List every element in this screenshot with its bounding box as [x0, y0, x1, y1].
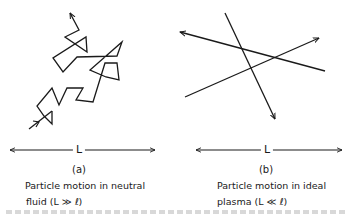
random-walk-path: [37, 13, 122, 124]
panel-tag-b: (b): [259, 164, 273, 175]
cutoff-caption-text: [6, 210, 346, 214]
caption-b-line2: plasma (L ≪ ℓ): [217, 196, 287, 207]
panel-tag-a: (a): [72, 164, 86, 175]
panel-b-illustration: [180, 13, 325, 119]
trajectory-leftward: [180, 32, 325, 71]
caption-b-line1: Particle motion in ideal: [217, 180, 326, 191]
length-label-a: L: [73, 144, 85, 156]
length-label-b: L: [261, 144, 273, 156]
trajectory-up-right: [185, 38, 319, 97]
panel-a-illustration: [29, 13, 122, 129]
caption-a-line1: Particle motion in neutral: [25, 180, 145, 191]
trajectory-downward: [225, 13, 275, 119]
caption-a-line2: fluid (L ≫ ℓ): [26, 196, 82, 207]
